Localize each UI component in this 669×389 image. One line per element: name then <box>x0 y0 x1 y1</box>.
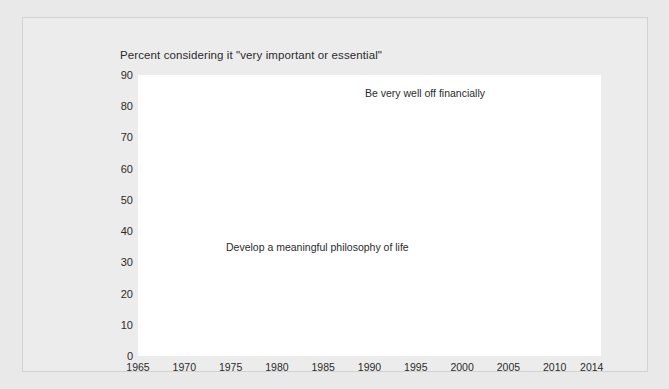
plot-background <box>138 75 601 356</box>
y-axis-tick-10: 10 <box>93 319 133 331</box>
x-axis-tick-1970: 1970 <box>173 361 196 373</box>
y-axis-tick-70: 70 <box>93 131 133 143</box>
series-label-be-very-well-off-financially: Be very well off financially <box>365 87 485 99</box>
x-axis-tick-2010: 2010 <box>543 361 566 373</box>
y-axis-tick-labels: 0102030405060708090 <box>91 75 133 356</box>
x-axis-tick-1995: 1995 <box>404 361 427 373</box>
y-axis-tick-40: 40 <box>93 225 133 237</box>
plot-area <box>138 75 601 356</box>
y-axis-tick-20: 20 <box>93 288 133 300</box>
y-axis-tick-90: 90 <box>93 69 133 81</box>
chart-title: Percent considering it "very important o… <box>120 49 382 61</box>
y-axis-tick-80: 80 <box>93 100 133 112</box>
x-axis-tick-2000: 2000 <box>450 361 473 373</box>
x-axis-tick-2014: 2014 <box>580 361 603 373</box>
x-axis-tick-1975: 1975 <box>219 361 242 373</box>
x-axis-tick-1965: 1965 <box>126 361 149 373</box>
chart-card: Percent considering it "very important o… <box>22 17 648 372</box>
y-axis-tick-30: 30 <box>93 256 133 268</box>
x-axis-tick-2005: 2005 <box>497 361 520 373</box>
x-axis-tick-1980: 1980 <box>265 361 288 373</box>
y-axis-tick-60: 60 <box>93 163 133 175</box>
x-axis-tick-1985: 1985 <box>312 361 335 373</box>
series-label-develop-a-meaningful-philosophy-of-life: Develop a meaningful philosophy of life <box>226 241 409 253</box>
x-axis-tick-1990: 1990 <box>358 361 381 373</box>
x-axis-tick-labels: 1965197019751980198519901995200020052010… <box>138 361 601 377</box>
screenshot-root: Percent considering it "very important o… <box>0 0 669 389</box>
y-axis-tick-50: 50 <box>93 194 133 206</box>
